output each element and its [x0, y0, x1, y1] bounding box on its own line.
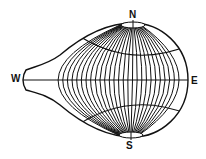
west-label: W: [11, 74, 20, 84]
graticule-diagram: [0, 0, 206, 159]
east-label: E: [191, 76, 198, 86]
north-label: N: [129, 10, 136, 20]
south-label: S: [126, 141, 133, 151]
